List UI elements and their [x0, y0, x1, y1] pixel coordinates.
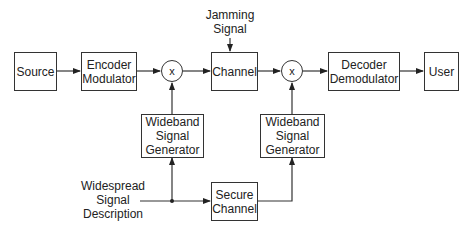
source-block: Source	[14, 52, 57, 91]
channel-block: Channel	[211, 52, 258, 91]
jamming-signal-label: Jamming Signal	[200, 8, 260, 36]
encoder-modulator-block: Encoder Modulator	[81, 52, 137, 91]
wideband-generator-2: Wideband Signal Generator	[260, 114, 325, 158]
user-block: User	[424, 52, 459, 91]
decoder-demodulator-block: Decoder Demodulator	[328, 52, 400, 91]
wideband-generator-1: Wideband Signal Generator	[141, 114, 204, 158]
widespread-signal-label: Widespread Signal Description	[80, 179, 146, 221]
secure-channel-block: Secure Channel	[211, 182, 258, 221]
mixer-2: x	[281, 60, 303, 82]
mixer-1: x	[161, 60, 183, 82]
